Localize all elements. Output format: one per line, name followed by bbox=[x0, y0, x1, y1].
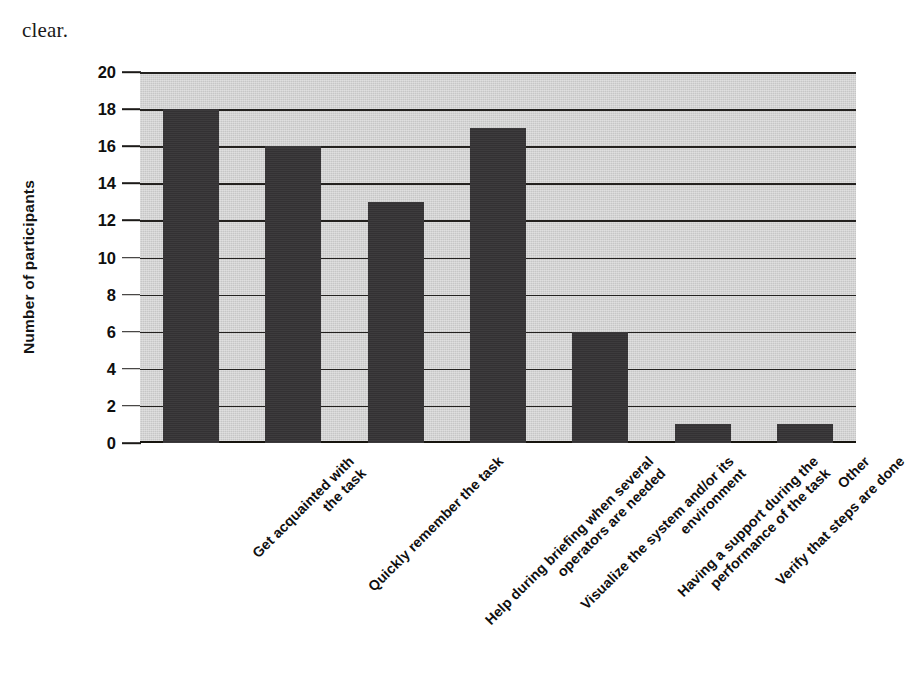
bar-5[interactable] bbox=[572, 332, 628, 443]
bar-6[interactable] bbox=[675, 424, 731, 443]
y-tick-label-20: 20 bbox=[58, 63, 116, 82]
y-tick-mark-10 bbox=[122, 257, 141, 259]
gridline-18 bbox=[140, 109, 856, 111]
x-label-line: Get acquainted with bbox=[249, 453, 358, 562]
gridline-20 bbox=[140, 72, 856, 74]
y-tick-mark-16 bbox=[122, 145, 141, 147]
y-tick-mark-8 bbox=[122, 294, 141, 296]
bar-1[interactable] bbox=[163, 109, 219, 443]
x-label-line: Help during briefing when several bbox=[481, 453, 656, 628]
y-tick-mark-6 bbox=[122, 331, 141, 333]
y-tick-label-4: 4 bbox=[58, 359, 116, 378]
x-axis-label-1: Get acquainted withthe task bbox=[249, 453, 370, 574]
y-tick-label-12: 12 bbox=[58, 211, 116, 230]
y-tick-mark-18 bbox=[122, 108, 141, 110]
x-label-line: Quickly remember the task bbox=[365, 453, 507, 595]
y-tick-label-16: 16 bbox=[58, 137, 116, 156]
y-tick-mark-14 bbox=[122, 183, 141, 185]
y-tick-label-18: 18 bbox=[58, 100, 116, 119]
y-tick-mark-4 bbox=[122, 368, 141, 370]
y-tick-mark-20 bbox=[122, 71, 141, 73]
plot-area bbox=[140, 72, 856, 443]
bar-2[interactable] bbox=[265, 146, 321, 443]
bar-3[interactable] bbox=[368, 202, 424, 443]
y-tick-label-0: 0 bbox=[58, 434, 116, 453]
y-tick-label-8: 8 bbox=[58, 285, 116, 304]
y-tick-label-14: 14 bbox=[58, 174, 116, 193]
y-tick-label-6: 6 bbox=[58, 322, 116, 341]
bar-7[interactable] bbox=[777, 424, 833, 443]
y-axis-title: Number of participants bbox=[20, 152, 38, 382]
y-tick-mark-0 bbox=[122, 442, 141, 444]
y-tick-mark-2 bbox=[122, 405, 141, 407]
bar-4[interactable] bbox=[470, 128, 526, 443]
y-tick-label-2: 2 bbox=[58, 396, 116, 415]
y-tick-label-10: 10 bbox=[58, 248, 116, 267]
x-axis-label-5: Having a support during theperformance o… bbox=[674, 453, 834, 613]
y-tick-mark-12 bbox=[122, 220, 141, 222]
x-axis-label-2: Quickly remember the task bbox=[365, 453, 507, 595]
